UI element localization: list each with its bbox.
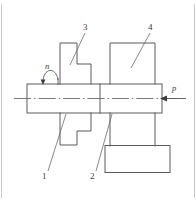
leader-line-4 xyxy=(131,33,150,68)
assembly-drawing-canvas xyxy=(0,0,196,202)
stepped-bracket-upper-outline xyxy=(60,43,91,84)
technical-drawing-figure: 1 2 3 4 n p xyxy=(0,0,196,202)
callout-4: 4 xyxy=(148,23,153,32)
force-arrow-head xyxy=(160,96,167,102)
callout-3: 3 xyxy=(83,23,88,32)
rotation-speed-symbol: n xyxy=(45,62,49,71)
leader-line-1 xyxy=(48,114,66,171)
rotation-arrow-arc xyxy=(43,70,58,82)
callout-1: 1 xyxy=(42,172,47,181)
callout-2: 2 xyxy=(90,172,95,181)
housing-block-upper-outline xyxy=(110,43,155,84)
axial-force-symbol: p xyxy=(172,84,176,93)
base-block-outline xyxy=(105,146,170,173)
